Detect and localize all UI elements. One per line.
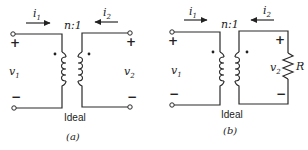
primary-bottom-wire xyxy=(16,81,66,108)
current-i2-label: i2 xyxy=(263,4,272,19)
resistor-label: R xyxy=(295,60,304,73)
terminal-primary-minus xyxy=(170,103,174,107)
terminal-primary-minus xyxy=(12,106,16,110)
secondary-coil xyxy=(78,57,83,81)
polarity-dot-secondary xyxy=(246,51,249,54)
secondary-bottom-wire xyxy=(78,81,128,107)
secondary-lead-top xyxy=(235,52,239,57)
figure-a: i1 i2 n:1 + − + − v1 v2 Ideal (a) xyxy=(9,6,137,142)
secondary-minus-sign: − xyxy=(276,87,286,101)
primary-top-wire xyxy=(15,34,62,52)
secondary-coil xyxy=(235,57,240,81)
turns-ratio-label: n:1 xyxy=(64,19,82,32)
voltage-v1-label: v1 xyxy=(171,64,182,79)
voltage-v2-label: v2 xyxy=(270,61,281,76)
primary-coil xyxy=(62,57,67,81)
current-i1-label: i1 xyxy=(33,7,41,22)
primary-bottom-wire xyxy=(174,81,224,105)
figure-b: i1 i2 n:1 R + − + − v1 v2 Ideal (b) xyxy=(168,4,304,136)
load-resistor xyxy=(283,53,293,79)
polarity-dot-secondary xyxy=(88,53,91,56)
current-i1-label: i1 xyxy=(189,5,197,20)
primary-lead-top xyxy=(220,52,224,57)
primary-coil xyxy=(220,57,225,81)
primary-minus-sign: − xyxy=(11,90,21,104)
figure-caption-a: (a) xyxy=(66,131,80,142)
primary-top-wire xyxy=(173,32,220,52)
voltage-v2-label: v2 xyxy=(124,65,135,80)
ideal-label: Ideal xyxy=(221,109,243,120)
polarity-dot-primary xyxy=(212,51,215,54)
primary-plus-sign: + xyxy=(168,34,178,48)
primary-minus-sign: − xyxy=(169,87,179,101)
secondary-plus-sign: + xyxy=(275,33,285,47)
ideal-transformer-diagrams: i1 i2 n:1 + − + − v1 v2 Ideal (a) xyxy=(0,0,308,150)
terminal-secondary-minus xyxy=(128,105,132,109)
current-i2-label: i2 xyxy=(103,6,112,21)
secondary-lead-top xyxy=(78,52,82,57)
secondary-top-wire xyxy=(82,33,128,52)
turns-ratio-label: n:1 xyxy=(221,18,239,31)
secondary-plus-sign: + xyxy=(126,35,136,49)
polarity-dot-primary xyxy=(54,53,57,56)
primary-lead-top xyxy=(62,52,66,57)
voltage-v1-label: v1 xyxy=(9,65,20,80)
secondary-minus-sign: − xyxy=(127,90,137,104)
primary-plus-sign: + xyxy=(10,36,20,50)
ideal-label: Ideal xyxy=(64,112,86,123)
figure-caption-b: (b) xyxy=(223,125,237,136)
